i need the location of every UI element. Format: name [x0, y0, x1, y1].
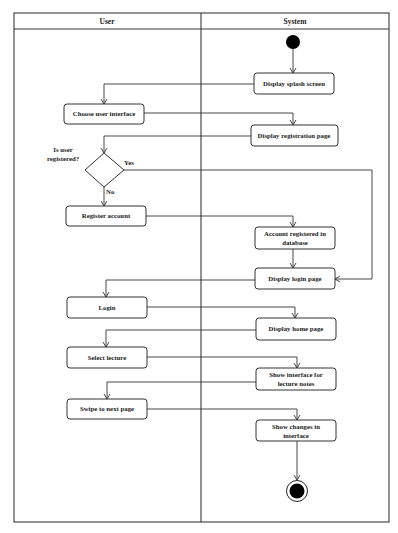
svg-text:Login: Login [99, 304, 116, 311]
action-display-splash-screen: Display splash screen [254, 73, 334, 94]
action-choose-user-interface: Choose user interface [64, 104, 144, 124]
action-swipe-to-next-page: Swipe to next page [67, 399, 147, 419]
final-node [287, 481, 308, 502]
svg-text:Display splash screen: Display splash screen [263, 80, 325, 87]
svg-text:lecture notes: lecture notes [278, 380, 315, 387]
action-register-account: Register account [66, 206, 146, 226]
action-show-interface-for-lecture-notes: Show interface for lecture notes [256, 368, 336, 390]
action-account-registered-in-database: Account registered in database [255, 227, 335, 249]
svg-text:Account registered in: Account registered in [264, 230, 326, 237]
svg-text:Select lecture: Select lecture [88, 354, 127, 361]
lane-title-user: User [100, 17, 116, 26]
action-select-lecture: Select lecture [67, 347, 147, 368]
svg-text:Show interface for: Show interface for [269, 371, 323, 378]
activity-diagram: User System Dis [0, 0, 398, 533]
action-display-home-page: Display home page [256, 318, 336, 340]
svg-text:interface: interface [283, 432, 309, 439]
action-show-changes-in-interface: Show changes in interface [256, 420, 336, 441]
svg-text:Register account: Register account [82, 212, 131, 219]
lane-title-system: System [284, 17, 308, 26]
svg-text:Show changes in: Show changes in [272, 423, 320, 430]
svg-text:Display home page: Display home page [269, 325, 324, 332]
decision-question-line1: Is user [53, 146, 72, 153]
svg-text:Display registration page: Display registration page [258, 132, 331, 139]
svg-text:database: database [282, 239, 308, 246]
action-login: Login [67, 297, 147, 318]
decision-yes-label: Yes [124, 159, 134, 166]
initial-node [286, 35, 300, 49]
decision-no-label: No [106, 188, 115, 195]
svg-text:Display login page: Display login page [268, 275, 321, 282]
decision-question-line2: registered? [47, 155, 79, 162]
svg-text:Choose user interface: Choose user interface [73, 110, 136, 117]
svg-text:Swipe to next page: Swipe to next page [80, 405, 134, 412]
action-display-login-page: Display login page [255, 268, 335, 289]
decision-is-user-registered [85, 153, 124, 187]
action-display-registration-page: Display registration page [251, 125, 338, 146]
